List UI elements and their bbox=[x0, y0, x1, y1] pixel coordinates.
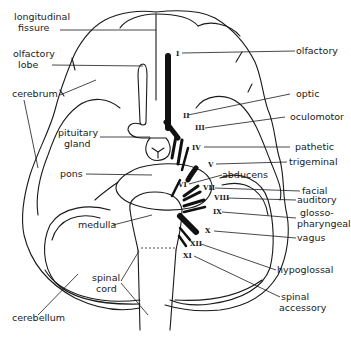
numeral-IX: IX bbox=[213, 207, 222, 216]
numeral-X: X bbox=[205, 226, 211, 235]
numeral-VI: VI bbox=[177, 180, 187, 189]
label-longitudinal-fissure-2: fissure bbox=[18, 22, 50, 33]
label-trigeminal: trigeminal bbox=[289, 156, 338, 167]
label-olfactory-lobe-2: lobe bbox=[18, 59, 38, 70]
label-pituitary-gland-2: gland bbox=[64, 138, 91, 149]
label-spinal-accessory-2: accessory bbox=[279, 302, 327, 313]
label-medulla: medulla bbox=[78, 219, 116, 230]
nerve-labels: olfactory optic oculomotor pathetic trig… bbox=[222, 45, 351, 313]
label-olfactory-lobe-1: olfactory bbox=[13, 48, 55, 59]
label-glossopharyngeal-1: glosso- bbox=[300, 207, 334, 218]
label-spinal-cord-2: cord bbox=[96, 283, 117, 294]
label-pituitary-gland-1: pituitary bbox=[58, 127, 99, 138]
numeral-XI: XI bbox=[183, 251, 192, 260]
label-longitudinal-fissure-1: longitudinal bbox=[14, 11, 70, 22]
label-abducens: abducens bbox=[222, 169, 268, 180]
label-spinal-accessory-1: spinal bbox=[281, 291, 309, 302]
label-oculomotor: oculomotor bbox=[290, 111, 344, 122]
numeral-XII: XII bbox=[190, 239, 202, 248]
numeral-II: II bbox=[183, 111, 190, 120]
numeral-V: V bbox=[207, 160, 214, 169]
label-pons: pons bbox=[60, 168, 83, 179]
label-hypoglossal: hypoglossal bbox=[277, 264, 333, 275]
label-auditory: auditory bbox=[297, 194, 337, 205]
label-spinal-cord-1: spinal bbox=[92, 272, 120, 283]
structure-labels: longitudinal fissure olfactory lobe cere… bbox=[12, 11, 120, 323]
label-cerebrum: cerebrum bbox=[12, 88, 58, 99]
label-olfactory: olfactory bbox=[296, 45, 338, 56]
nerve-numerals: I II III IV V VI VII VIII IX X XII XI bbox=[176, 49, 229, 260]
label-vagus: vagus bbox=[297, 232, 325, 243]
numeral-VIII: VIII bbox=[213, 193, 229, 202]
label-optic: optic bbox=[296, 88, 319, 99]
label-glossopharyngeal-2: pharyngeal bbox=[297, 218, 351, 229]
numeral-IV: IV bbox=[192, 143, 201, 152]
numeral-I: I bbox=[176, 49, 179, 58]
label-cerebellum: cerebellum bbox=[12, 312, 65, 323]
numeral-VII: VII bbox=[202, 183, 215, 192]
brain-cranial-nerves-diagram: I II III IV V VI VII VIII IX X XII XI bbox=[0, 0, 351, 338]
label-pathetic: pathetic bbox=[295, 141, 334, 152]
numeral-III: III bbox=[195, 123, 205, 132]
